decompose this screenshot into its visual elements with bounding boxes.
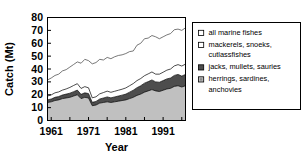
legend-item[interactable]: all marine fishes — [199, 28, 263, 37]
y-axis-title: Catch (Mt) — [3, 42, 15, 96]
legend-label: all marine fishes — [209, 28, 263, 37]
plot-data-layers — [48, 28, 186, 121]
y-tick-label: 50 — [31, 50, 43, 62]
y-tick-label: 70 — [31, 24, 43, 36]
legend-box: all marine fishesmackerels, snoeks,cutla… — [193, 23, 301, 110]
x-tick-label: 1991 — [151, 125, 175, 137]
x-tick-label: 1971 — [77, 125, 101, 137]
y-tick-label: 80 — [31, 11, 43, 23]
legend-marker-inner — [200, 78, 202, 80]
y-tick-label: 10 — [31, 101, 43, 113]
y-tick-label: 40 — [31, 63, 43, 75]
figure-container: 010203040506070801961197119811991YearCat… — [0, 0, 304, 167]
x-tick-label: 1961 — [40, 125, 64, 137]
legend-label: mackerels, snoeks, — [209, 40, 272, 49]
legend-label: jacks, mullets, sauries — [208, 62, 282, 71]
legend-marker-open-square-white — [199, 42, 204, 47]
y-tick-label: 30 — [31, 75, 43, 87]
y-tick-label: 60 — [31, 37, 43, 49]
legend-label-cont: cutlassfishes — [209, 50, 252, 59]
legend-label: herrings, sardines, — [209, 74, 270, 83]
catch-by-species-area-chart: 010203040506070801961197119811991YearCat… — [0, 0, 304, 167]
x-tick-label: 1981 — [114, 125, 138, 137]
x-axis-title: Year — [105, 141, 129, 153]
legend-marker-open-square-white — [199, 30, 204, 35]
legend-marker-filled-square-dark — [199, 65, 204, 70]
legend-item[interactable]: jacks, mullets, sauries — [199, 62, 282, 71]
legend-label-cont: anchovies — [209, 85, 243, 94]
y-tick-label: 20 — [31, 88, 43, 100]
